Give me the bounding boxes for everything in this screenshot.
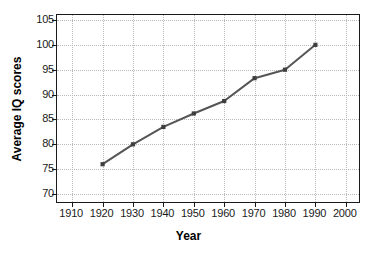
data-point-marker <box>283 68 287 72</box>
data-point-marker <box>253 76 257 80</box>
y-tick-label: 105 <box>14 13 54 25</box>
data-point-marker <box>222 99 226 103</box>
data-point-marker <box>161 125 165 129</box>
x-tick-label: 2000 <box>322 207 368 219</box>
data-point-marker <box>192 111 196 115</box>
data-series-line <box>57 15 361 204</box>
data-point-marker <box>101 162 105 166</box>
data-point-marker <box>131 142 135 146</box>
x-axis-title: Year <box>0 229 377 243</box>
data-point-marker <box>313 43 317 47</box>
y-axis-title: Average IQ scores <box>10 29 24 189</box>
plot-area <box>56 14 360 203</box>
iq-line-chart-figure: 707580859095100105 191019201930194019501… <box>0 0 377 253</box>
